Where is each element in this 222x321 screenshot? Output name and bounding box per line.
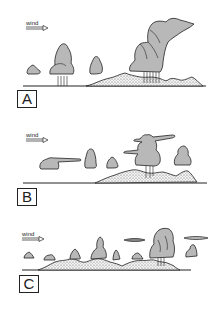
storm-cloud-a4 [130,18,194,83]
panel-label-c: C [19,275,39,293]
cloud-c3 [70,249,80,259]
cloud-c10 [186,245,197,257]
sheared-cloud-b1 [40,158,81,169]
panel-c: wind [21,228,208,270]
diagram-canvas: wind [0,0,222,321]
panel-label-b: B [17,188,37,206]
cloud-b2 [85,149,97,168]
terrain-c [38,259,180,270]
cloud-a3 [90,57,103,74]
panel-a: wind [23,18,206,86]
cloud-c4 [91,237,106,259]
cloud-small-a1 [27,65,40,74]
svg-text:wind: wind [25,132,38,138]
cloud-anvil-c9 [184,237,208,240]
wind-arrow-c: wind [21,231,44,242]
cumulus-a2 [50,44,74,86]
cloud-c1 [24,252,34,258]
svg-text:wind: wind [25,20,38,26]
cloud-c2 [44,255,55,260]
panel-b: wind [23,132,207,183]
wind-arrow-a: wind [25,20,48,31]
cloud-c5 [113,250,120,260]
svg-text:wind: wind [21,231,34,237]
wind-arrow-b: wind [25,132,48,143]
cloud-b3 [107,157,118,168]
panel-label-a: A [17,90,37,108]
cloud-anvil-c7 [124,239,145,242]
cloud-b5 [174,146,191,165]
cloud-c6 [132,253,143,259]
terrain-a [86,73,203,86]
